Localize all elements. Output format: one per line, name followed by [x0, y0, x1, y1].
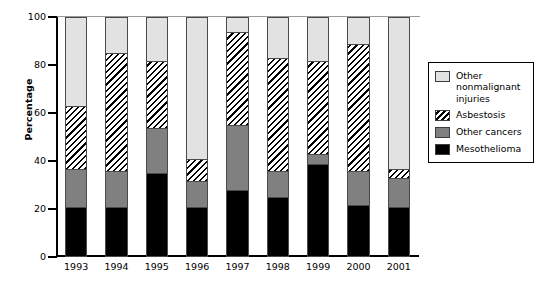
x-axis-tick-label: 1994: [96, 262, 136, 272]
bar-group: [105, 17, 128, 257]
bar-group: [186, 17, 209, 257]
bar-segment: [187, 160, 208, 182]
x-axis-tick-label: 1997: [217, 262, 257, 272]
stacked-bar: [186, 17, 209, 257]
bar-segment: [268, 172, 289, 198]
bar-group: [226, 17, 249, 257]
legend-swatch-icon: [435, 144, 450, 155]
bar-segment: [348, 172, 369, 206]
bar-segment: [147, 129, 168, 175]
bar-group: [65, 17, 88, 257]
legend-item: Asbestosis: [435, 109, 528, 121]
bar-series-area: [56, 17, 419, 257]
bar-segment: [147, 62, 168, 129]
legend-item-label: Other cancers: [456, 126, 522, 137]
stacked-bar: [388, 17, 411, 257]
y-axis-tick-label: 20: [2, 204, 46, 214]
bar-group: [146, 17, 169, 257]
bar-segment: [147, 174, 168, 256]
legend-item: Other nonmalignant injuries: [435, 70, 528, 104]
bar-segment: [147, 17, 168, 62]
y-axis-tick-label: 40: [2, 156, 46, 166]
bar-segment: [227, 126, 248, 191]
bar-segment: [106, 208, 127, 256]
bar-segment: [389, 208, 410, 256]
y-axis-tick: [48, 112, 57, 114]
bar-segment: [187, 17, 208, 160]
legend-swatch-icon: [435, 110, 450, 121]
legend-item-label: Asbestosis: [456, 109, 505, 120]
bar-segment: [268, 59, 289, 172]
bar-segment: [187, 182, 208, 208]
bar-segment: [389, 17, 410, 170]
bar-segment: [389, 170, 410, 180]
stacked-bar: [65, 17, 88, 257]
y-axis-tick-label: 100: [2, 12, 46, 22]
bar-segment: [268, 198, 289, 256]
x-axis-tick-label: 1999: [298, 262, 338, 272]
bar-segment: [66, 208, 87, 256]
legend-swatch-icon: [435, 71, 450, 82]
legend-item-label: Other nonmalignant injuries: [456, 70, 528, 104]
y-axis-tick: [48, 160, 57, 162]
x-axis-tick-label: 1995: [137, 262, 177, 272]
y-axis-tick-label: 0: [2, 252, 46, 262]
bar-segment: [308, 17, 329, 62]
bar-group: [388, 17, 411, 257]
bar-segment: [308, 165, 329, 256]
legend-item-label: Mesothelioma: [456, 143, 521, 154]
bar-group: [267, 17, 290, 257]
bar-segment: [348, 17, 369, 45]
y-axis-tick: [48, 208, 57, 210]
x-axis-tick-labels: 199319941995199619971998199920002001: [56, 262, 419, 280]
bar-segment: [227, 33, 248, 127]
bar-segment: [106, 17, 127, 54]
bar-segment: [227, 17, 248, 33]
bar-segment: [66, 170, 87, 208]
bar-segment: [187, 208, 208, 256]
stacked-bar: [307, 17, 330, 257]
x-axis-tick-label: 1996: [177, 262, 217, 272]
legend-swatch-icon: [435, 127, 450, 138]
bar-segment: [66, 17, 87, 107]
chart-legend: Other nonmalignant injuriesAsbestosisOth…: [428, 62, 534, 163]
x-axis-tick-label: 1998: [258, 262, 298, 272]
stacked-bar: [267, 17, 290, 257]
stacked-bar: [226, 17, 249, 257]
x-axis-tick-label: 2000: [338, 262, 378, 272]
y-axis-tick: [48, 256, 57, 258]
bar-segment: [66, 107, 87, 169]
stacked-bar: [146, 17, 169, 257]
bar-segment: [308, 62, 329, 156]
x-axis-tick-label: 1993: [56, 262, 96, 272]
y-axis-tick: [48, 64, 57, 66]
bar-group: [347, 17, 370, 257]
x-axis-tick-label: 2001: [379, 262, 419, 272]
stacked-bar-chart: Percentage 020406080100 1993199419951996…: [0, 0, 541, 287]
bar-segment: [106, 172, 127, 208]
legend-item: Mesothelioma: [435, 143, 528, 155]
y-axis-tick-label: 80: [2, 60, 46, 70]
bar-segment: [308, 155, 329, 165]
legend-item: Other cancers: [435, 126, 528, 138]
bar-segment: [348, 206, 369, 256]
y-axis-tick: [48, 16, 57, 18]
y-axis-tick-label: 60: [2, 108, 46, 118]
bar-segment: [348, 45, 369, 172]
stacked-bar: [347, 17, 370, 257]
bar-segment: [106, 54, 127, 172]
bar-group: [307, 17, 330, 257]
bar-segment: [227, 191, 248, 256]
stacked-bar: [105, 17, 128, 257]
y-axis-tick-labels: 020406080100: [0, 0, 46, 287]
bar-segment: [389, 179, 410, 208]
bar-segment: [268, 17, 289, 59]
